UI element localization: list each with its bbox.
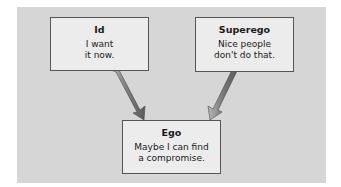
superego-text-line1: Nice people	[196, 39, 293, 50]
arrow-id-to-ego	[111, 70, 145, 120]
ego-text-line2: a compromise.	[123, 153, 220, 164]
id-text: I want it now.	[51, 39, 148, 61]
id-text-line2: it now.	[51, 50, 148, 61]
id-text-line1: I want	[51, 39, 148, 50]
superego-title: Superego	[196, 24, 293, 35]
arrow-superego-to-ego	[208, 71, 237, 120]
ego-box: Ego Maybe I can find a compromise.	[122, 120, 221, 174]
ego-text-line1: Maybe I can find	[123, 142, 220, 153]
ego-text: Maybe I can find a compromise.	[123, 142, 220, 164]
ego-title: Ego	[123, 127, 220, 138]
superego-text: Nice people don't do that.	[196, 39, 293, 61]
superego-text-line2: don't do that.	[196, 50, 293, 61]
superego-box: Superego Nice people don't do that.	[195, 17, 294, 72]
id-box: Id I want it now.	[50, 17, 149, 71]
id-title: Id	[51, 24, 148, 35]
